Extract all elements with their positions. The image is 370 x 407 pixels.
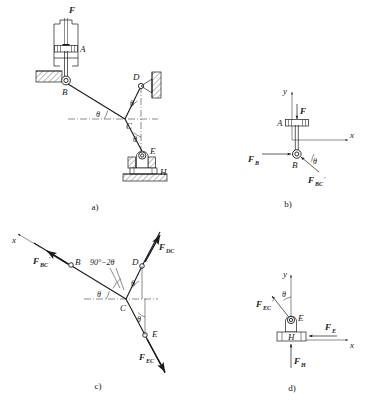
angle-theta-left-c: θ bbox=[97, 290, 101, 299]
member-CE-line-c bbox=[126, 299, 145, 335]
point-H-label-d: H bbox=[287, 332, 295, 342]
svg-text:BC: BC bbox=[314, 181, 324, 187]
force-FEC-arrow-c bbox=[147, 339, 165, 372]
svg-text:F: F bbox=[299, 106, 306, 116]
force-FE-label-d: F E bbox=[324, 322, 336, 334]
force-FEC-label-c: F EC bbox=[138, 352, 155, 364]
svg-text:F: F bbox=[158, 242, 165, 252]
force-FBC-label-c: F BC ′ bbox=[32, 256, 51, 268]
axis-x-label-b: x bbox=[349, 130, 354, 140]
svg-text:BC: BC bbox=[39, 262, 49, 268]
force-FB-label-b: F B bbox=[247, 154, 259, 166]
angle-arc-theta-left-a bbox=[104, 111, 108, 119]
svg-text:F: F bbox=[32, 256, 39, 266]
leader-line-2-c bbox=[116, 268, 124, 290]
point-A-label-b: A bbox=[276, 118, 283, 128]
angle-theta-lower-c: θ bbox=[137, 315, 141, 324]
point-D-support-a bbox=[138, 72, 161, 98]
angle-theta-left-a: θ bbox=[96, 110, 100, 119]
axis-x-label-c: x bbox=[11, 235, 16, 245]
force-FDC-label-c: F DC bbox=[158, 242, 175, 254]
point-H-label-a: H bbox=[159, 167, 167, 177]
axis-x-c bbox=[18, 234, 40, 247]
point-B-label-c: B bbox=[75, 257, 81, 267]
svg-text:′: ′ bbox=[272, 299, 274, 305]
svg-text:E: E bbox=[331, 328, 336, 334]
svg-text:F: F bbox=[293, 356, 300, 366]
figure-root: F A bbox=[0, 0, 370, 407]
angle-theta-b: θ bbox=[313, 157, 317, 166]
member-CD-ext-c bbox=[142, 232, 160, 266]
point-E-label-a: E bbox=[149, 146, 156, 156]
point-D-label-c: D bbox=[131, 257, 139, 267]
point-A-label-a: A bbox=[79, 44, 86, 54]
pin-B-b bbox=[293, 150, 302, 159]
piston-rod-a bbox=[65, 51, 68, 78]
piston-head-b bbox=[286, 120, 309, 127]
svg-text:B: B bbox=[254, 160, 259, 166]
caption-c: c) bbox=[95, 381, 102, 391]
svg-text:DC: DC bbox=[165, 248, 175, 254]
svg-text:EC: EC bbox=[262, 305, 272, 311]
caption-a: a) bbox=[92, 202, 99, 212]
panel-d-fbd-slider: y x E H F EC ′ θ F E bbox=[255, 269, 354, 393]
force-F-label-a: F bbox=[68, 5, 75, 15]
panel-a-mechanism: F A bbox=[36, 5, 167, 212]
axis-x-label-d: x bbox=[349, 340, 354, 350]
piston-head-a bbox=[55, 46, 78, 53]
angle-theta-d: θ bbox=[282, 290, 286, 299]
svg-text:F: F bbox=[138, 352, 145, 362]
force-FBC-label-b: F BC ′ bbox=[307, 175, 326, 187]
statics-figure-svg: F A bbox=[0, 0, 370, 407]
angle-theta-lower-a: θ bbox=[133, 135, 137, 144]
pin-B-c bbox=[69, 263, 74, 268]
angle-theta-upper-a: θ bbox=[130, 99, 134, 108]
point-B-label-a: B bbox=[62, 87, 68, 97]
svg-text:F: F bbox=[324, 322, 331, 332]
point-C-label-c: C bbox=[120, 303, 127, 313]
axis-y-label-d: y bbox=[282, 269, 287, 279]
pin-B-a bbox=[62, 76, 71, 85]
svg-text:F: F bbox=[307, 175, 314, 185]
point-D-label-a: D bbox=[132, 72, 140, 82]
angle-expr-label-c: 90°−2θ bbox=[90, 258, 115, 267]
svg-text:F: F bbox=[255, 299, 262, 309]
caption-d: d) bbox=[288, 383, 296, 393]
panel-b-fbd-piston: y x F A B F B bbox=[247, 86, 354, 209]
svg-text:F: F bbox=[247, 154, 254, 164]
force-F-label-b: F bbox=[299, 106, 306, 116]
point-C-label-a: C bbox=[126, 121, 133, 131]
caption-b: b) bbox=[284, 199, 292, 209]
wall-support-b-a bbox=[36, 71, 62, 82]
svg-text:H: H bbox=[300, 362, 306, 368]
force-FEC-label-d: F EC ′ bbox=[255, 299, 274, 311]
cylinder-skirt-a bbox=[54, 58, 78, 66]
svg-text:′: ′ bbox=[324, 176, 326, 182]
svg-text:′: ′ bbox=[49, 256, 51, 262]
point-E-label-c: E bbox=[151, 329, 158, 339]
svg-text:EC: EC bbox=[145, 358, 155, 364]
angle-arc-expr-c bbox=[113, 279, 121, 289]
force-FH-label-d: F H bbox=[293, 356, 306, 368]
axis-y-label-b: y bbox=[282, 86, 287, 96]
point-B-label-b: B bbox=[292, 160, 298, 170]
panel-c-fbd-joint-C: x B F BC ′ D F DC E F EC bbox=[11, 232, 175, 391]
point-E-label-d: E bbox=[297, 313, 304, 323]
slider-body-d bbox=[286, 316, 297, 332]
angle-arc-theta-left-c bbox=[106, 291, 109, 299]
angle-theta-upper-c: θ bbox=[131, 279, 135, 288]
force-FDC-arrow-c bbox=[145, 235, 160, 262]
